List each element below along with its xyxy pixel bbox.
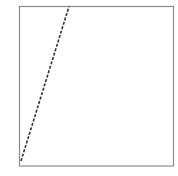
diagram-canvas bbox=[0, 0, 178, 176]
dashed-line bbox=[21, 7, 69, 162]
frame-box bbox=[20, 7, 174, 167]
